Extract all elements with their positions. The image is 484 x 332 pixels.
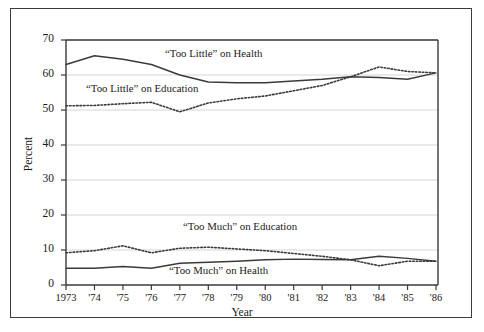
y-tick-label-0: 0 <box>26 277 54 289</box>
y-tick-label-40: 40 <box>26 137 54 149</box>
x-tick-label-1978: '78 <box>202 292 214 303</box>
x-tick-label-1976: '76 <box>145 292 157 303</box>
x-tick-label-1981: '81 <box>287 292 299 303</box>
series-annotation-2: “Too Much” on Education <box>183 220 297 232</box>
y-tick-label-10: 10 <box>26 242 54 254</box>
chart-figure: Percent Year 706050403020100 1973'74'75'… <box>0 0 484 332</box>
series-annotation-3: “Too Much” on Health <box>169 264 268 276</box>
x-tick-label-1986: '86 <box>430 292 442 303</box>
series-annotation-0: “Too Little” on Health <box>165 47 262 59</box>
x-tick-label-1977: '77 <box>174 292 186 303</box>
x-tick-label-1982: '82 <box>316 292 328 303</box>
y-tick-label-30: 30 <box>26 172 54 184</box>
x-axis-title: Year <box>0 306 484 318</box>
series-line-0 <box>66 56 436 83</box>
x-tick-label-1975: '75 <box>117 292 129 303</box>
y-tick-label-60: 60 <box>26 67 54 79</box>
x-tick-label-1979: '79 <box>231 292 243 303</box>
y-tick-label-50: 50 <box>26 102 54 114</box>
y-tick-label-20: 20 <box>26 207 54 219</box>
x-tick-label-1980: '80 <box>259 292 271 303</box>
x-tick-label-1973: 1973 <box>56 292 77 303</box>
y-tick-label-70: 70 <box>26 32 54 44</box>
series-annotation-1: “Too Little” on Education <box>86 82 198 94</box>
x-tick-label-1985: '85 <box>401 292 413 303</box>
x-tick-label-1983: '83 <box>344 292 356 303</box>
x-tick-label-1984: '84 <box>373 292 385 303</box>
x-tick-label-1974: '74 <box>88 292 100 303</box>
